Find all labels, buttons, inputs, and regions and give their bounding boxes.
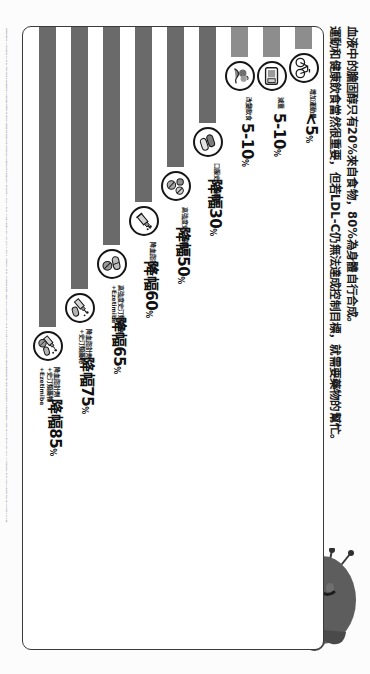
chart-row: 減重 5-10% (257, 27, 287, 649)
vegetables-icon (225, 61, 255, 91)
bar-diet-change (231, 27, 248, 57)
chart-row: 改變飲食 5-10% (225, 27, 255, 649)
bar-statin-ezetimibe (103, 27, 120, 245)
chart-row: 高強度史汀類藥物 +Ezetimibe 降幅65% (97, 27, 127, 649)
infographic-poster: 血液中的膽固醇只有20%來自食物，80%為身體自行合成。 運動和健康飲食當然很重… (0, 0, 370, 674)
value-injection-statin: 降幅75% (77, 357, 94, 414)
value-injection-statin-ezetimibe: 降幅85% (45, 399, 62, 456)
value-weight-loss: 5-10% (269, 113, 286, 157)
bar-injection-statin (71, 27, 88, 289)
capsule-duo-icon (97, 249, 127, 279)
value-statin-ezetimibe: 降幅65% (109, 317, 126, 374)
bar-injection-statin-ezetimibe (39, 27, 56, 327)
label-weight-loss: 減重 (278, 97, 285, 109)
headline-line-1: 血液中的膽固醇只有20%來自食物，80%為身體自行合成。 (345, 26, 359, 329)
bar-weight-loss (263, 27, 280, 57)
chart-row: 降血脂針劑 降幅60% (129, 27, 159, 649)
syringe-pill-icon (65, 293, 95, 323)
value-diet-change: 5-10% (237, 123, 254, 167)
value-lipid-injection: 降幅60% (141, 261, 158, 318)
bar-oral-statin (199, 27, 216, 123)
references-text: References: 1. Nicholls SJ, et al. The T… (4, 28, 8, 628)
bar-lipid-injection (135, 27, 152, 202)
bar-increase-exercise (295, 27, 312, 49)
chart-row: 口服史汀類藥物 降幅30% (193, 27, 223, 649)
value-oral-statin: 降幅30% (205, 179, 222, 236)
label-diet-change: 改變飲食 (246, 97, 253, 121)
chart-row: 高強度史汀類藥物 降幅50% (161, 27, 191, 649)
value-high-intensity-statin: 降幅50% (173, 227, 190, 284)
chart-frame: 增加運動量 <5% 減重 5-10% (22, 26, 324, 650)
capsule-pair-icon (193, 127, 223, 157)
chart-row: 降血脂針劑 +史汀類藥物 +Ezetimibe 降幅85% (33, 27, 63, 649)
bar-high-intensity-statin (167, 27, 184, 167)
bicycle-icon (289, 53, 319, 83)
pill-trio-icon (161, 171, 191, 201)
value-increase-exercise: <5% (301, 113, 318, 143)
screenshot-canvas: 血液中的膽固醇只有20%來自食物，80%為身體自行合成。 運動和健康飲食當然很重… (0, 0, 370, 674)
syringe-pill-capsule-icon (33, 331, 63, 361)
weight-scale-icon (257, 61, 287, 91)
syringe-icon (129, 206, 159, 236)
chart-row: 降血脂針劑 +史汀類藥物 降幅75% (65, 27, 95, 649)
chart-row: 增加運動量 <5% (289, 27, 319, 649)
